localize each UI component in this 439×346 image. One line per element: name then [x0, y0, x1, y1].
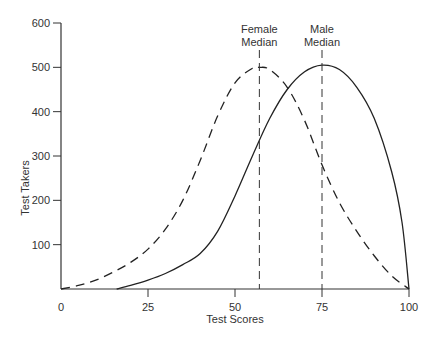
axes: 1002003004005006000255075100	[32, 17, 419, 313]
curves	[61, 65, 409, 289]
female-curve	[61, 67, 409, 289]
male-curve	[117, 65, 409, 289]
y-tick-label: 400	[32, 106, 50, 118]
x-tick-label: 0	[58, 301, 64, 313]
x-tick-label: 100	[400, 301, 418, 313]
median-annotations: FemaleMedianMaleMedian	[241, 23, 340, 289]
x-axis-title: Test Scores	[206, 313, 264, 325]
y-tick-label: 300	[32, 150, 50, 162]
median-label: Male	[310, 23, 334, 35]
median-label: Female	[241, 23, 278, 35]
x-tick-label: 50	[229, 301, 241, 313]
y-tick-label: 200	[32, 194, 50, 206]
plot-area: 1002003004005006000255075100 FemaleMedia…	[0, 0, 439, 346]
y-tick-label: 600	[32, 17, 50, 29]
chart: 1002003004005006000255075100 FemaleMedia…	[0, 0, 439, 346]
x-tick-label: 75	[316, 301, 328, 313]
y-tick-label: 100	[32, 239, 50, 251]
y-tick-label: 500	[32, 61, 50, 73]
median-label: Median	[241, 36, 277, 48]
median-label: Median	[304, 36, 340, 48]
y-axis-title: Test Takers	[19, 160, 31, 216]
x-tick-label: 25	[142, 301, 154, 313]
